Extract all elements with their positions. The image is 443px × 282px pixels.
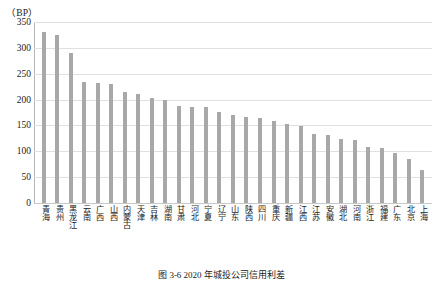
bar[interactable] <box>190 107 194 203</box>
y-axis-tick: 350 <box>17 17 31 27</box>
y-axis-tick: 100 <box>17 146 31 156</box>
bar-slot <box>64 22 78 203</box>
x-label-slot: 宁夏 <box>199 205 213 265</box>
x-axis-label: 陕西 <box>242 205 251 221</box>
bar-slot <box>321 22 335 203</box>
bar[interactable] <box>204 107 208 203</box>
bar[interactable] <box>42 32 46 203</box>
bar[interactable] <box>285 124 289 203</box>
x-label-slot: 贵州 <box>51 205 65 265</box>
bar[interactable] <box>55 35 59 203</box>
x-label-slot: 浙江 <box>361 205 375 265</box>
bar-slot <box>172 22 186 203</box>
x-axis-label: 宁夏 <box>202 205 211 221</box>
x-label-slot: 云南 <box>78 205 92 265</box>
y-axis-tick-labels: 350300250200150100500 <box>0 22 31 203</box>
bar-slot <box>334 22 348 203</box>
x-label-slot: 重庆 <box>267 205 281 265</box>
bar[interactable] <box>217 112 221 203</box>
bar-slot <box>118 22 132 203</box>
bar-slot <box>105 22 119 203</box>
bar-slot <box>361 22 375 203</box>
x-label-slot: 湖北 <box>334 205 348 265</box>
figure-caption: 图 3-6 2020 年城投公司信用利差 <box>0 268 443 281</box>
bar-slot <box>267 22 281 203</box>
bar-slot <box>388 22 402 203</box>
bar-slot <box>213 22 227 203</box>
x-label-slot: 山东 <box>226 205 240 265</box>
x-label-slot: 河北 <box>186 205 200 265</box>
x-axis-label: 江苏 <box>310 205 319 221</box>
bar-slot <box>91 22 105 203</box>
bar[interactable] <box>366 147 370 203</box>
bar[interactable] <box>82 82 86 203</box>
bar[interactable] <box>109 84 113 203</box>
x-label-slot: 天津 <box>132 205 146 265</box>
x-axis-label: 湖北 <box>337 205 346 221</box>
bar[interactable] <box>312 134 316 203</box>
x-axis-label: 江西 <box>296 205 305 221</box>
y-axis-tick: 150 <box>17 120 31 130</box>
bar[interactable] <box>244 117 248 203</box>
x-axis-label: 云南 <box>80 205 89 221</box>
x-axis-label: 黑龙江 <box>66 205 75 229</box>
x-axis-label: 山西 <box>107 205 116 221</box>
bar[interactable] <box>272 121 276 203</box>
x-label-slot: 福建 <box>375 205 389 265</box>
bar[interactable] <box>393 153 397 203</box>
y-axis-tick: 250 <box>17 69 31 79</box>
gridline <box>34 203 432 204</box>
bar[interactable] <box>231 115 235 203</box>
x-axis-label: 河南 <box>350 205 359 221</box>
bar[interactable] <box>163 100 167 203</box>
x-label-slot: 青海 <box>37 205 51 265</box>
bar-slot <box>132 22 146 203</box>
bar[interactable] <box>299 126 303 203</box>
bar-series <box>34 22 432 203</box>
bar[interactable] <box>69 53 73 203</box>
x-axis-label: 广东 <box>391 205 400 221</box>
x-label-slot: 广东 <box>388 205 402 265</box>
bar-slot <box>348 22 362 203</box>
x-axis-label: 天津 <box>134 205 143 221</box>
plot-area <box>34 22 432 203</box>
bar-slot <box>415 22 429 203</box>
x-axis-label: 广西 <box>94 205 103 221</box>
y-axis-tick: 300 <box>17 43 31 53</box>
bar[interactable] <box>136 94 140 203</box>
x-label-slot: 四川 <box>253 205 267 265</box>
x-label-slot: 上海 <box>415 205 429 265</box>
bar[interactable] <box>123 92 127 203</box>
x-axis-label: 安徽 <box>323 205 332 221</box>
x-label-slot: 陕西 <box>240 205 254 265</box>
bar-slot <box>226 22 240 203</box>
x-axis-category-labels: 青海贵州黑龙江云南广西山西内蒙古天津吉林湖南甘肃河北宁夏辽宁山东陕西四川重庆新疆… <box>34 205 432 265</box>
x-axis-label: 四川 <box>256 205 265 221</box>
x-label-slot: 辽宁 <box>213 205 227 265</box>
x-label-slot: 山西 <box>105 205 119 265</box>
x-label-slot: 吉林 <box>145 205 159 265</box>
x-axis-label: 山东 <box>229 205 238 221</box>
x-axis-label: 新疆 <box>283 205 292 221</box>
x-label-slot: 江苏 <box>307 205 321 265</box>
bar-slot <box>186 22 200 203</box>
bar-slot <box>280 22 294 203</box>
bar[interactable] <box>407 159 411 203</box>
x-axis-label: 甘肃 <box>175 205 184 221</box>
bar-slot <box>402 22 416 203</box>
x-axis-label: 福建 <box>377 205 386 221</box>
bar[interactable] <box>177 106 181 203</box>
bar[interactable] <box>353 140 357 203</box>
bar-slot <box>307 22 321 203</box>
x-axis-label: 辽宁 <box>215 205 224 221</box>
bar[interactable] <box>339 139 343 203</box>
bar[interactable] <box>150 98 154 203</box>
x-axis-label: 北京 <box>404 205 413 221</box>
bar[interactable] <box>380 148 384 203</box>
x-label-slot: 黑龙江 <box>64 205 78 265</box>
bar[interactable] <box>420 170 424 203</box>
bar[interactable] <box>258 118 262 203</box>
bar[interactable] <box>96 83 100 203</box>
bar[interactable] <box>326 135 330 203</box>
y-axis-tick: 0 <box>26 198 31 208</box>
